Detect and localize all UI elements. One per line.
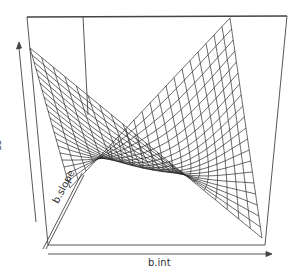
z-axis-label: ss: [0, 140, 4, 150]
mesh-line: [214, 35, 239, 219]
mesh-line: [42, 58, 78, 180]
z-axis-arrow: [19, 48, 36, 222]
mesh-line: [56, 95, 241, 163]
persp-surface-plot: [0, 0, 293, 277]
x-axis-label: b.int: [148, 257, 171, 268]
surface-mesh: [30, 18, 262, 238]
mesh-line: [166, 86, 182, 174]
mesh-line: [174, 78, 191, 177]
mesh-line: [230, 18, 262, 238]
